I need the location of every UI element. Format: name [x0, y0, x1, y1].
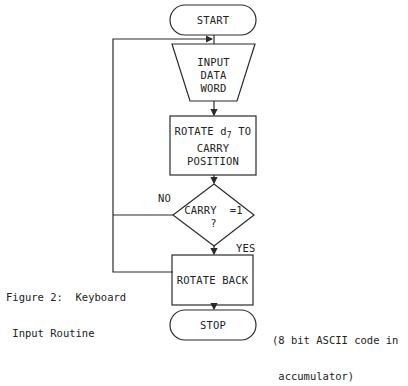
decision-line-1: CARRY =1: [173, 204, 254, 217]
rotate-label: ROTATE d7 TO CARRY POSITION: [170, 125, 256, 168]
decision-line-2: ?: [173, 217, 254, 230]
caption-line-2: Input Routine: [6, 327, 126, 339]
caption-line-1: Figure 2: Keyboard: [6, 291, 126, 303]
stop-label: STOP: [170, 319, 256, 332]
note-line-1: (8 bit ASCII code in: [272, 334, 398, 346]
input-line-3: WORD: [172, 82, 255, 95]
input-label: INPUT DATA WORD: [172, 56, 255, 95]
start-label: START: [170, 14, 256, 27]
yes-label: YES: [236, 242, 262, 255]
note-line-2: accumulator): [272, 370, 398, 382]
rotate-line-1: ROTATE d7 TO: [170, 125, 256, 142]
rotate-text-pre: ROTATE d: [175, 125, 227, 137]
figure-caption: Figure 2: Keyboard Input Routine: [6, 267, 126, 351]
rotate-text-post: TO: [232, 125, 252, 137]
rotate-back-label: ROTATE BACK: [172, 274, 253, 287]
rotate-line-2: CARRY: [170, 142, 256, 155]
decision-label: CARRY =1 ?: [173, 204, 254, 230]
rotate-line-3: POSITION: [170, 155, 256, 168]
input-line-2: DATA: [172, 69, 255, 82]
input-line-1: INPUT: [172, 56, 255, 69]
accumulator-note: (8 bit ASCII code in accumulator): [272, 310, 398, 386]
